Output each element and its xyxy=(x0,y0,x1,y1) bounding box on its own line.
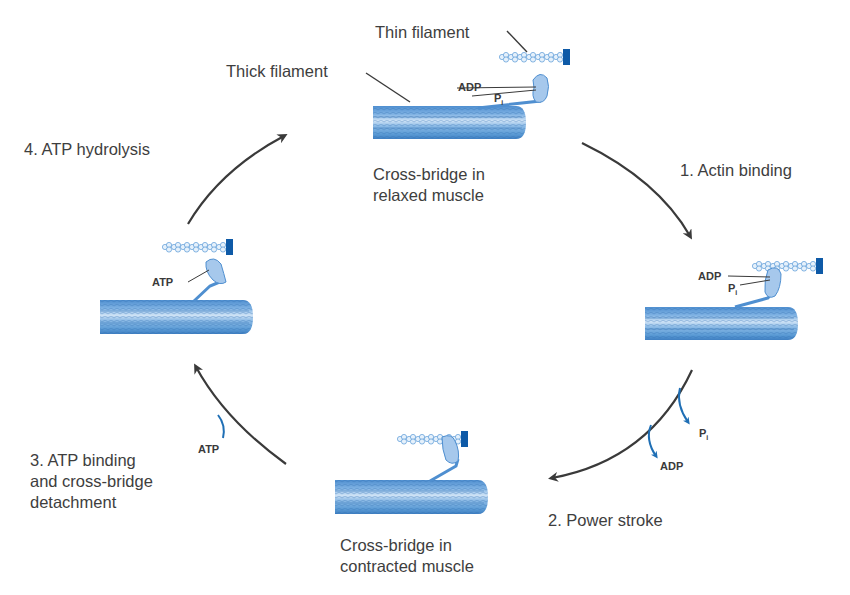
arrow-step-1 xyxy=(582,143,690,236)
pi-released-label: Pi xyxy=(699,427,708,441)
detached-stage xyxy=(100,239,253,334)
contracted-caption-line1: Cross-bridge in xyxy=(340,535,452,556)
myosin-head-bound xyxy=(735,268,781,307)
thin-filament-contracted xyxy=(397,431,468,447)
thin-filament-bound xyxy=(752,258,823,274)
step-3-label-line1: 3. ATP binding xyxy=(30,450,136,471)
pi-label-relaxed: Pi xyxy=(494,92,503,106)
adp-label-bound: ADP xyxy=(698,270,721,282)
adp-label-relaxed: ADP xyxy=(458,81,481,93)
arrow-step-4 xyxy=(188,136,284,224)
myosin-head-relaxed xyxy=(478,74,549,108)
step-3-label-line2: and cross-bridge xyxy=(30,471,153,492)
cross-bridge-cycle-diagram xyxy=(0,0,850,595)
step-4-label: 4. ATP hydrolysis xyxy=(24,139,150,160)
myosin-head-contracted xyxy=(430,436,459,481)
relaxed-caption-line2: relaxed muscle xyxy=(373,185,484,206)
atp-added-label: ATP xyxy=(198,443,219,455)
thin-filament-detached xyxy=(162,239,233,255)
step-1-label: 1. Actin binding xyxy=(680,160,792,181)
thick-filament-label: Thick filament xyxy=(226,61,328,82)
step-3-label-line3: detachment xyxy=(30,492,116,513)
pi-label-bound: Pi xyxy=(728,282,737,296)
atp-label-detached: ATP xyxy=(152,276,173,288)
contracted-caption-line2: contracted muscle xyxy=(340,556,474,577)
step-2-label: 2. Power stroke xyxy=(548,510,663,531)
relaxed-caption-line1: Cross-bridge in xyxy=(373,164,485,185)
thick-filament-bound xyxy=(645,307,798,340)
thick-filament-contracted xyxy=(335,480,488,514)
adp-released-label: ADP xyxy=(660,460,683,472)
myosin-head-detached xyxy=(194,259,226,301)
thin-filament-label: Thin filament xyxy=(375,22,469,43)
adp-release-arrow xyxy=(649,425,656,456)
thick-filament-detached xyxy=(100,300,253,334)
contracted-stage xyxy=(335,431,488,514)
atp-uptake-arrow xyxy=(218,415,224,438)
bound-stage xyxy=(645,258,823,340)
thick-filament-relaxed xyxy=(373,106,526,139)
thin-filament-relaxed xyxy=(499,49,570,65)
